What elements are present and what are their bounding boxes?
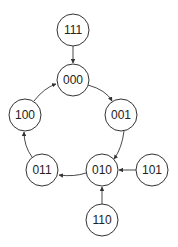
node-label: 001 [111,108,131,122]
node-110: 110 [86,204,118,236]
edge-100-000 [34,84,56,101]
state-diagram: 111 000 001 100 011 010 101 110 [0,0,178,247]
node-111: 111 [57,14,89,46]
node-label: 101 [142,163,162,177]
edge-010-011 [59,173,86,176]
node-100: 100 [9,99,41,131]
node-label: 011 [32,163,51,177]
node-label: 000 [63,73,83,87]
node-label: 110 [92,213,111,227]
node-000: 000 [57,64,89,96]
node-011: 011 [26,154,58,186]
node-010: 010 [86,154,118,186]
edge-001-010 [114,131,124,159]
node-label: 010 [92,163,112,177]
node-label: 111 [64,23,83,37]
nodes: 111 000 001 100 011 010 101 110 [9,14,168,236]
node-101: 101 [136,154,168,186]
node-label: 100 [15,108,35,122]
edge-000-001 [88,85,112,101]
edge-011-100 [24,132,32,157]
node-001: 001 [105,99,137,131]
